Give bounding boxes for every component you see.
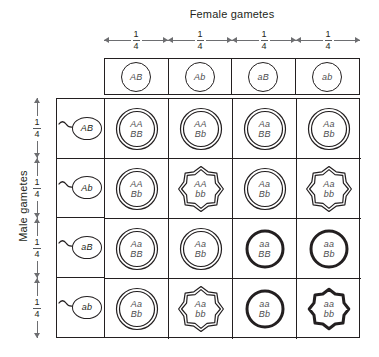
offspring-genotype-label: Aa BB — [130, 239, 142, 259]
arrow-down-icon — [37, 141, 38, 159]
fraction-denominator: 4 — [197, 40, 204, 51]
sperm-head: aB — [72, 236, 102, 259]
fraction-one-quarter: 1 4 — [325, 30, 332, 51]
sperm-cell-icon: AB — [58, 116, 102, 140]
offspring-cell: Aa BB — [233, 99, 297, 159]
offspring-cell: Aa Bb — [169, 219, 233, 279]
fraction-denominator: 4 — [133, 40, 140, 51]
fraction-numerator: 1 — [33, 238, 40, 248]
fraction-one-quarter: 1 4 — [33, 238, 40, 259]
fraction-denominator: 4 — [261, 40, 268, 51]
row-fraction-markers: 1 4 1 4 1 4 1 4 — [20, 98, 54, 338]
offspring-genotype-label: aa Bb — [259, 299, 270, 319]
egg-cell-icon: aB — [248, 62, 278, 92]
arrow-up-icon — [37, 278, 38, 296]
offspring-genotype-label: Aa BB — [258, 119, 270, 139]
arrow-up-icon — [37, 98, 38, 116]
female-gamete-label: AB — [130, 72, 142, 82]
sperm-cell-icon: Ab — [58, 176, 102, 200]
offspring-genotype-label: AA Bb — [130, 179, 142, 199]
male-gamete-cell: ab — [57, 278, 104, 338]
female-gamete-header-row: AB Ab aB ab — [104, 58, 360, 95]
female-gamete-cell: AB — [105, 59, 169, 94]
male-gamete-label: Ab — [81, 183, 92, 193]
offspring-cell: Aa Bb — [233, 159, 297, 219]
offspring-genotype-label: aa BB — [258, 239, 270, 259]
pea-round-thin-double: Aa BB — [114, 226, 160, 272]
female-gamete-label: ab — [322, 72, 332, 82]
egg-cell-icon: AB — [121, 62, 151, 92]
female-gamete-cell: ab — [296, 59, 360, 94]
female-gamete-cell: aB — [232, 59, 296, 94]
offspring-genotype-label: Aa Bb — [131, 299, 142, 319]
arrow-down-icon — [37, 321, 38, 339]
fraction-denominator: 4 — [33, 188, 40, 199]
punnett-square-diagram: Female gametes Male gametes 1 4 1 4 1 4 — [0, 0, 379, 357]
sperm-head: ab — [72, 296, 102, 319]
arrow-left-icon — [232, 40, 259, 41]
male-gamete-label: aB — [81, 242, 92, 252]
offspring-cell: AA bb — [169, 159, 233, 219]
pea-round-thin-double: Aa Bb — [306, 106, 352, 152]
male-gamete-cell: Ab — [57, 159, 104, 219]
fraction-one-quarter: 1 4 — [133, 30, 140, 51]
offspring-grid: AA BBAA BbAa BBAa BbAA BbAA bbAa BbAa bb… — [104, 98, 360, 338]
fraction-denominator: 4 — [33, 128, 40, 139]
offspring-genotype-label: Aa Bb — [195, 239, 206, 259]
fraction-denominator: 4 — [325, 40, 332, 51]
offspring-cell: Aa Bb — [297, 99, 361, 159]
offspring-cell: Aa bb — [297, 159, 361, 219]
sperm-cell-icon: aB — [58, 235, 102, 259]
female-gamete-label: aB — [258, 72, 269, 82]
column-fraction-marker: 1 4 — [104, 26, 168, 54]
arrow-down-icon — [37, 261, 38, 279]
row-fraction-marker: 1 4 — [20, 218, 54, 278]
pea-round-thin-double: AA Bb — [114, 166, 160, 212]
female-gamete-cell: Ab — [169, 59, 233, 94]
sperm-head: AB — [72, 117, 102, 140]
offspring-genotype-label: aa Bb — [323, 239, 334, 259]
row-fraction-marker: 1 4 — [20, 158, 54, 218]
egg-cell-icon: ab — [312, 62, 342, 92]
offspring-cell: AA BB — [105, 99, 169, 159]
pea-wrinkled-thin-double: Aa bb — [306, 166, 352, 212]
offspring-cell: aa bb — [297, 279, 361, 339]
offspring-cell: Aa Bb — [105, 279, 169, 339]
fraction-one-quarter: 1 4 — [261, 30, 268, 51]
pea-round-thin-double: AA Bb — [178, 106, 224, 152]
pea-wrinkled-thick-single: aa bb — [306, 286, 352, 332]
fraction-numerator: 1 — [197, 30, 204, 40]
pea-round-thin-double: AA BB — [114, 106, 160, 152]
arrow-right-icon — [206, 40, 233, 41]
arrow-left-icon — [296, 40, 323, 41]
fraction-numerator: 1 — [325, 30, 332, 40]
offspring-genotype-label: AA bb — [194, 179, 206, 199]
female-gametes-title: Female gametes — [104, 8, 360, 20]
fraction-denominator: 4 — [33, 308, 40, 319]
fraction-numerator: 1 — [33, 178, 40, 188]
pea-round-thin-double: Aa Bb — [242, 166, 288, 212]
fraction-denominator: 4 — [33, 248, 40, 259]
fraction-numerator: 1 — [261, 30, 268, 40]
pea-round-thick-single: aa Bb — [306, 226, 352, 272]
pea-round-thin-double: Aa Bb — [114, 286, 160, 332]
sperm-cell-icon: ab — [58, 295, 102, 319]
offspring-cell: AA Bb — [169, 99, 233, 159]
offspring-cell: AA Bb — [105, 159, 169, 219]
offspring-cell: aa Bb — [297, 219, 361, 279]
pea-wrinkled-thin-double: Aa bb — [178, 286, 224, 332]
arrow-down-icon — [37, 201, 38, 219]
fraction-one-quarter: 1 4 — [33, 118, 40, 139]
offspring-genotype-label: aa bb — [324, 299, 334, 319]
column-fraction-marker: 1 4 — [296, 26, 360, 54]
male-gamete-label: AB — [81, 123, 93, 133]
row-fraction-marker: 1 4 — [20, 98, 54, 158]
pea-round-thin-double: Aa Bb — [178, 226, 224, 272]
male-gamete-cell: aB — [57, 218, 104, 278]
arrow-up-icon — [37, 158, 38, 176]
pea-round-thick-single: aa Bb — [242, 286, 288, 332]
fraction-one-quarter: 1 4 — [197, 30, 204, 51]
male-gamete-label: ab — [82, 302, 92, 312]
offspring-cell: aa BB — [233, 219, 297, 279]
fraction-numerator: 1 — [33, 298, 40, 308]
